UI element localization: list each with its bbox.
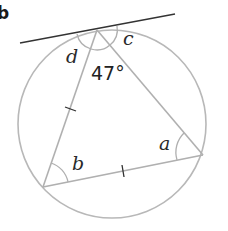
angle-label-a: a [159,132,170,154]
angle-arc-a [176,133,184,160]
circle-theorem-diagram: b d c 47° b a [0,0,228,231]
side-top-to-right [97,30,203,155]
angle-arc-b [51,163,68,182]
angle-label-d: d [66,45,78,67]
angle-label-b: b [72,152,84,174]
angle-label-c: c [123,27,134,49]
part-label: b [0,3,9,23]
angle-arc-47 [91,45,110,50]
angle-value-47: 47° [91,62,125,84]
angle-arc-c [110,26,117,45]
circumcircle [18,30,206,218]
